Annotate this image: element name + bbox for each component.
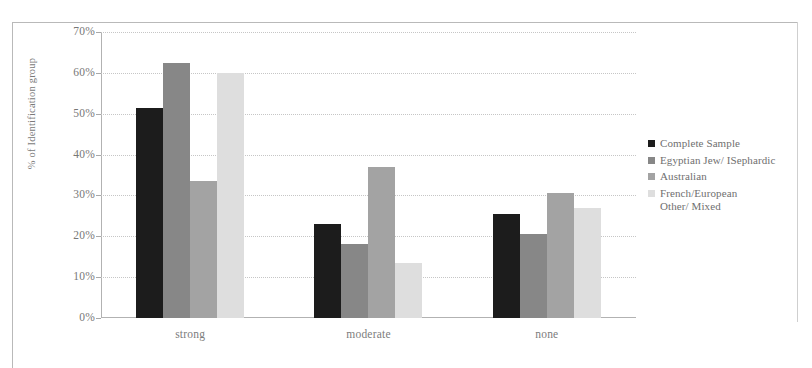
bar xyxy=(190,181,217,318)
bar xyxy=(217,73,244,318)
figure-border-left xyxy=(12,22,13,368)
bar xyxy=(368,167,395,318)
bar xyxy=(493,214,520,318)
bar xyxy=(136,108,163,318)
bar-cluster xyxy=(493,32,601,318)
y-axis-tick-labels: 70%60%50%40%30%20%10%0% xyxy=(55,32,95,318)
y-axis-tick-label: 10% xyxy=(73,271,95,283)
bar xyxy=(574,208,601,318)
bar-group: moderate xyxy=(279,32,457,318)
y-axis-tick-label: 20% xyxy=(73,230,95,242)
bar xyxy=(341,244,368,318)
x-axis-tick-label: strong xyxy=(101,328,279,340)
figure-border-top xyxy=(12,22,798,23)
bar-group: none xyxy=(458,32,636,318)
y-axis-tick-label: 40% xyxy=(73,149,95,161)
bar xyxy=(314,224,341,318)
bar xyxy=(163,63,190,318)
legend-label: French/EuropeanOther/ Mixed xyxy=(660,187,737,213)
bar-group: strong xyxy=(101,32,279,318)
legend-swatch xyxy=(648,140,655,147)
y-axis-tick xyxy=(96,318,101,319)
x-axis-tick-label: moderate xyxy=(279,328,457,340)
legend-item: Egyptian Jew/ ISephardic xyxy=(648,154,808,167)
legend-item: Australian xyxy=(648,170,808,183)
legend-item: French/EuropeanOther/ Mixed xyxy=(648,187,808,213)
legend-swatch xyxy=(648,190,655,197)
y-axis-tick-label: 70% xyxy=(73,26,95,38)
legend-label-line2: Other/ Mixed xyxy=(660,200,737,213)
legend-label: Egyptian Jew/ ISephardic xyxy=(660,154,775,167)
y-axis-tick-label: 50% xyxy=(73,108,95,120)
x-axis-tick-label: none xyxy=(458,328,636,340)
bar-cluster xyxy=(136,32,244,318)
y-axis-tick-label: 0% xyxy=(79,312,95,324)
y-axis-tick-label: 30% xyxy=(73,189,95,201)
chart-legend: Complete SampleEgyptian Jew/ ISephardicA… xyxy=(648,137,808,216)
plot-area: strongmoderatenone xyxy=(101,32,636,318)
bar-cluster xyxy=(314,32,422,318)
bar xyxy=(520,234,547,318)
bar xyxy=(547,193,574,318)
bar xyxy=(395,263,422,318)
chart-figure: % of Identification group 70%60%50%40%30… xyxy=(0,0,812,368)
legend-swatch xyxy=(648,157,655,164)
legend-label: Australian xyxy=(660,170,707,183)
legend-item: Complete Sample xyxy=(648,137,808,150)
y-axis-title: % of Identification group xyxy=(26,39,37,189)
legend-label: Complete Sample xyxy=(660,137,740,150)
y-axis-tick-label: 60% xyxy=(73,67,95,79)
legend-swatch xyxy=(648,173,655,180)
